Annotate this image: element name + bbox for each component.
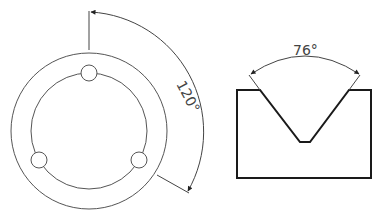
- angle-dimension-arc-76: [251, 56, 359, 74]
- extension-line-lower-right: [157, 175, 189, 193]
- hole-top: [81, 65, 97, 81]
- extension-line-left-flank: [249, 75, 260, 90]
- technical-drawing: 120° 76°: [0, 0, 379, 219]
- inner-circle: [31, 73, 147, 189]
- v-block: 76°: [237, 42, 371, 178]
- v-block-outline: [237, 90, 371, 178]
- hole-bottom-left: [31, 152, 47, 168]
- extension-line-right-flank: [349, 75, 360, 90]
- angle-label-76: 76°: [293, 42, 318, 58]
- circular-plate: 120°: [11, 11, 204, 209]
- hole-bottom-right: [131, 152, 147, 168]
